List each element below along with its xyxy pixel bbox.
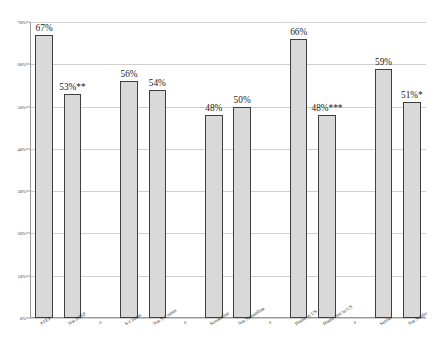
x-axis-category-label: Not S-Comm: [152, 308, 177, 326]
bar-chart: 0%10%20%30%40%50%60%70% 67%53%**56%54%48…: [0, 0, 434, 364]
x-axis-spacer-label: 0: [269, 320, 271, 325]
x-axis-spacer-label: 0: [354, 320, 356, 325]
x-axis-category-label: ATEP: [39, 316, 52, 327]
x-axis-category-label: S-Comm: [124, 312, 142, 326]
x-axis-category-label: Not ATEP: [67, 311, 87, 326]
x-axis-category-label: Not Settler: [407, 310, 428, 326]
x-axis-spacer-label: 0: [99, 320, 101, 325]
x-axis-category-label: Settler: [379, 315, 393, 326]
x-axis-category-label: Home in US: [294, 309, 318, 326]
x-axis-labels: ATEPNot ATEP0S-CommNot S-Comm0Streamline…: [0, 0, 434, 364]
x-axis-category-label: Not Streamline: [237, 306, 265, 326]
x-axis-category-label: Home Not in US: [322, 304, 353, 326]
x-axis-spacer-label: 0: [184, 320, 186, 325]
x-axis-category-label: Streamline: [209, 311, 230, 327]
